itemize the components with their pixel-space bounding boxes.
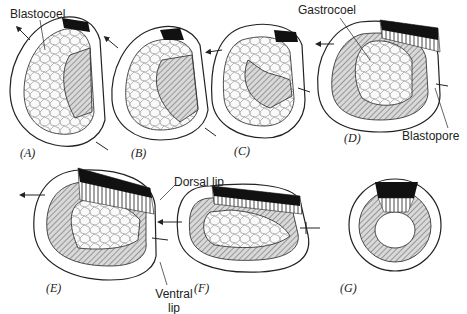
- panel-f-embryo: [160, 184, 320, 272]
- panel-label-b: (B): [131, 146, 146, 161]
- panel-label-d: (D): [344, 131, 361, 146]
- panel-label-f: (F): [194, 281, 209, 296]
- label-blastopore: Blastopore: [402, 130, 459, 142]
- label-blastocoel: Blastocoel: [10, 8, 65, 20]
- panel-a-embryo: [10, 17, 108, 150]
- panel-label-e: (E): [46, 281, 61, 296]
- panel-label-c: (C): [234, 144, 250, 159]
- panel-d-embryo: [318, 18, 448, 132]
- panel-e-embryo: [22, 168, 168, 280]
- panel-label-g: (G): [340, 281, 357, 296]
- panel-c-embryo: [208, 24, 310, 138]
- label-gastrocoel: Gastrocoel: [298, 4, 356, 16]
- panel-g-embryo: [349, 179, 441, 271]
- label-ventral-lip: Ventral lip: [154, 288, 194, 314]
- label-dorsal-lip: Dorsal lip: [174, 176, 224, 188]
- panel-label-a: (A): [20, 146, 35, 161]
- panel-b-embryo: [106, 26, 216, 140]
